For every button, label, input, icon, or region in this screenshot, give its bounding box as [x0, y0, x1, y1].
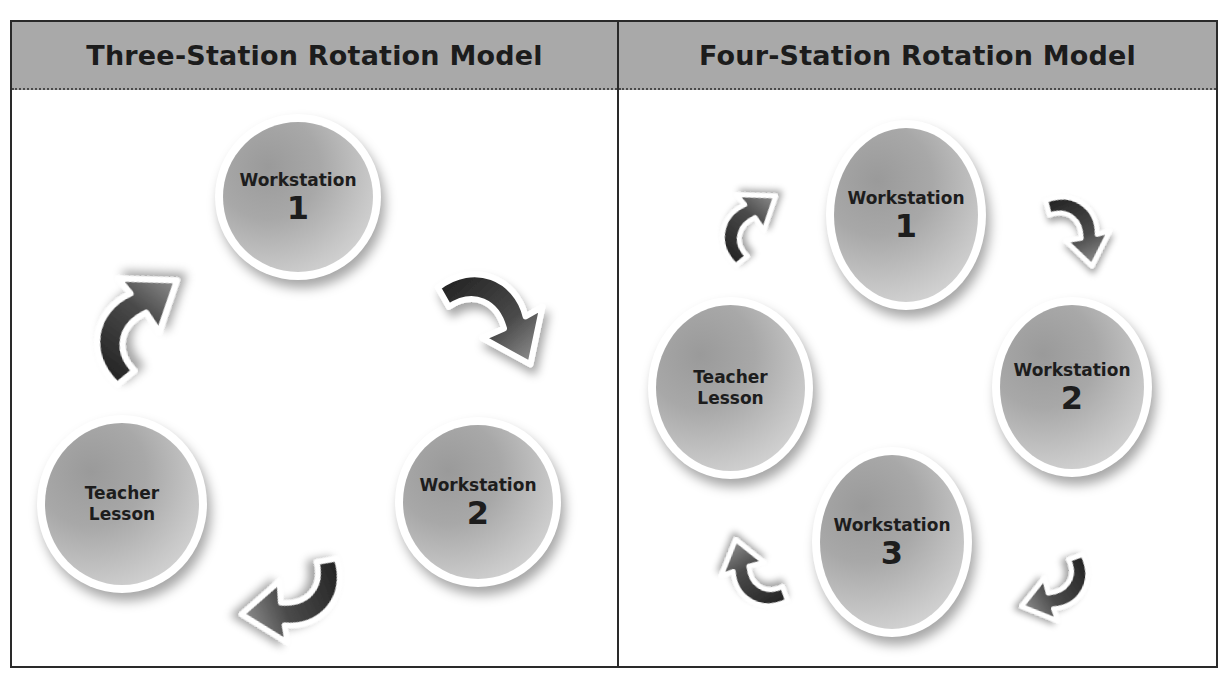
station-label: Workstation	[240, 170, 357, 191]
arrow-right-down-icon	[1036, 177, 1116, 277]
arrow-up-left-icon	[715, 532, 795, 622]
arrow-left-icon	[227, 542, 367, 652]
diagram-frame: Three-Station Rotation Model Workstation…	[10, 20, 1218, 668]
panel-title: Three-Station Rotation Model	[86, 40, 542, 71]
arrow-up-right-icon	[74, 262, 194, 392]
station-label: Workstation	[1014, 360, 1131, 381]
station-number: 1	[287, 191, 309, 225]
station-teacher-lesson: Teacher Lesson	[648, 297, 813, 479]
station-label-line2: Lesson	[89, 504, 155, 525]
panel-header: Four-Station Rotation Model	[619, 22, 1216, 90]
station-workstation-2: Workstation 2	[992, 297, 1152, 477]
arrow-up-right-icon	[707, 182, 787, 272]
station-teacher-lesson: Teacher Lesson	[37, 415, 207, 593]
station-number: 3	[881, 536, 903, 570]
station-workstation-1: Workstation 1	[826, 120, 986, 310]
station-number: 2	[1061, 381, 1083, 415]
station-number: 1	[895, 209, 917, 243]
four-station-panel: Four-Station Rotation Model Workstation …	[619, 22, 1216, 666]
station-workstation-2: Workstation 2	[395, 417, 561, 587]
station-workstation-1: Workstation 1	[215, 114, 381, 280]
three-station-panel: Three-Station Rotation Model Workstation…	[12, 22, 617, 666]
arrow-down-left-icon	[1019, 537, 1099, 637]
station-label: Workstation	[834, 515, 951, 536]
station-number: 2	[467, 496, 489, 530]
station-label: Teacher	[693, 367, 767, 388]
panel-header: Three-Station Rotation Model	[12, 22, 617, 90]
arrow-right-down-icon	[427, 254, 557, 374]
station-label: Teacher	[85, 483, 159, 504]
station-label: Workstation	[848, 188, 965, 209]
station-label-line2: Lesson	[697, 388, 763, 409]
panel-title: Four-Station Rotation Model	[699, 40, 1136, 71]
station-workstation-3: Workstation 3	[812, 447, 972, 637]
station-label: Workstation	[420, 475, 537, 496]
